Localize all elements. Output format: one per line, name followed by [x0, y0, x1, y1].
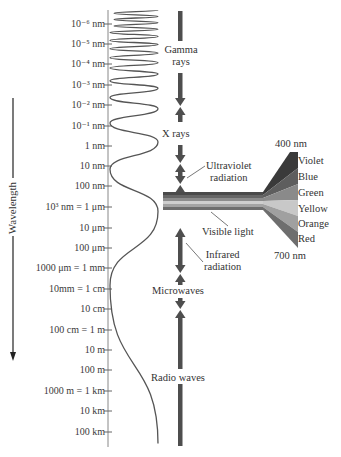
tick-label: 10⁻⁴ nm	[71, 59, 105, 69]
tick-label: 100 μm	[74, 243, 105, 253]
tick-label: 10⁻¹ nm	[71, 121, 105, 131]
uv-label-line2: radiation	[206, 172, 252, 184]
tick-label: 10⁻³ nm	[71, 80, 105, 90]
uv-label-line1: Ultraviolet	[206, 160, 252, 172]
bottom-wavelength-label: 700 nm	[274, 250, 306, 261]
tick-label: 10 nm	[80, 161, 105, 171]
tick-label: 10⁻⁶ nm	[71, 19, 105, 29]
tick-label: 10 m	[85, 345, 105, 355]
gamma-label: Gamma rays	[163, 44, 199, 68]
tick-label: 10 km	[80, 406, 105, 416]
visible-label: Visible light	[202, 226, 254, 238]
color-label-red: Red	[298, 233, 315, 245]
radio-label: Radio waves	[151, 372, 205, 384]
tick-label: 1 nm	[85, 141, 105, 151]
top-wavelength-label: 400 nm	[275, 138, 307, 149]
em-spectrum-diagram: Wavelength 10⁻⁶ nm10⁻⁵ nm10⁻⁴ nm10⁻³ nm1…	[0, 0, 341, 457]
tick-label: 10³ nm = 1 μm	[45, 202, 105, 212]
color-label-yellow: Yellow	[298, 203, 328, 215]
tick-label: 10mm = 1 cm	[49, 284, 105, 294]
xrays-label: X rays	[162, 128, 190, 140]
tick-label: 10⁻⁵ nm	[71, 39, 105, 49]
color-label-violet: Violet	[298, 155, 324, 167]
color-label-orange: Orange	[298, 218, 329, 230]
color-label-green: Green	[298, 187, 324, 199]
ir-leader-line	[186, 243, 203, 262]
wavelength-arrowhead-icon	[10, 352, 16, 361]
tick-label: 10 cm	[80, 304, 105, 314]
axis-title: Wavelength	[6, 178, 18, 238]
gamma-label-line2: rays	[163, 56, 199, 68]
tick-label: 10 μm	[79, 223, 105, 233]
visible-leader-line	[211, 212, 228, 226]
ir-label-line2: radiation	[204, 261, 241, 273]
uv-label: Ultraviolet radiation	[206, 160, 252, 184]
tick-label: 1000 m = 1 km	[44, 386, 105, 396]
tick-label: 100 cm = 1 m	[49, 325, 105, 335]
tick-label: 100 nm	[75, 181, 105, 191]
ir-label-line1: Infrared	[204, 249, 241, 261]
color-label-blue: Blue	[298, 171, 318, 183]
uv-leader-line	[187, 166, 205, 178]
ir-label: Infrared radiation	[204, 249, 241, 273]
microwaves-label: Microwaves	[152, 285, 204, 297]
tick-label: 1000 μm = 1 mm	[36, 263, 105, 273]
gamma-label-line1: Gamma	[163, 44, 199, 56]
tick-label: 10⁻² nm	[71, 100, 105, 110]
tick-label: 100 km	[75, 427, 105, 437]
tick-label: 100 m	[80, 365, 105, 375]
